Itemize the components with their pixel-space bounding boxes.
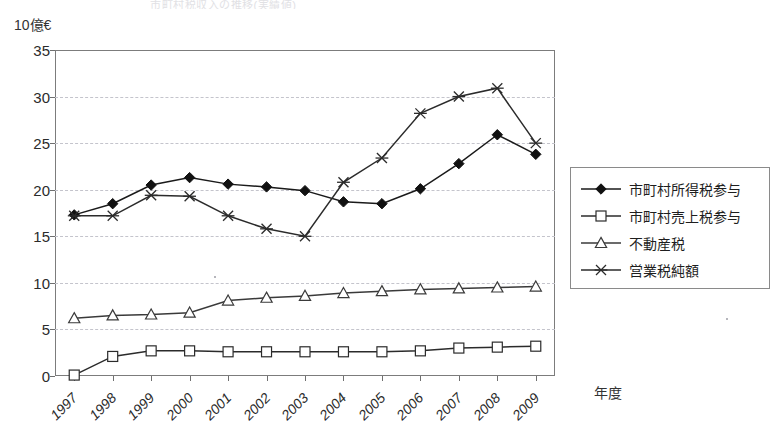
data-point-cross-star [183,191,196,201]
data-point-filled-diamond [338,197,348,207]
x-axis-tick-label: 1999 [124,390,157,423]
data-point-filled-diamond [415,184,425,194]
series-line [74,135,536,215]
y-axis-tick-label: 5 [42,321,50,338]
x-axis-tick-label: 2006 [394,390,427,423]
scan-speck [214,276,216,278]
legend-marker-open-square-icon [580,208,622,224]
data-point-open-square [300,347,310,357]
legend-item-3[interactable]: 不動産税 [571,229,769,256]
data-point-cross-star [414,108,427,118]
data-point-open-square [415,346,425,356]
chart-page: 市町村税収入の推移(実績値) 10億€ 05101520253035 19971… [0,0,783,433]
data-point-cross-star [491,83,504,93]
chart-legend: 市町村所得税参与市町村売上税参与不動産税営業税純額 [570,167,770,289]
x-axis-tick-labels: 1997199819992000200120022003200420052006… [55,376,555,431]
x-axis-tick-label: 2005 [355,390,388,423]
x-axis-tick-label: 2004 [317,390,350,423]
x-axis-tick-label: 1998 [86,390,119,423]
data-point-open-square [377,347,387,357]
data-point-filled-diamond [300,185,310,195]
data-point-cross-star [595,265,608,275]
legend-marker-cross-star-icon [580,262,622,278]
legend-item-label: 不動産税 [622,233,685,253]
data-point-open-square [454,343,464,353]
legend-item-label: 市町村所得税参与 [622,179,741,199]
x-axis-tick-label: 1997 [47,390,80,423]
data-point-filled-diamond [223,179,233,189]
data-point-cross-star [106,211,119,221]
data-point-open-square [223,347,233,357]
data-point-open-square [531,341,541,351]
x-axis-tick-label: 2000 [163,390,196,423]
x-axis-tick-label: 2003 [278,390,311,423]
legend-item-2[interactable]: 市町村売上税参与 [571,202,769,229]
y-axis-tick-label: 30 [33,88,50,105]
data-point-filled-diamond [531,149,541,159]
data-point-cross-star [529,138,542,148]
data-point-open-square [185,346,195,356]
data-point-open-square [596,211,606,221]
chart-title-clipped: 市町村税収入の推移(実績値) [150,0,570,9]
y-axis-tick-label: 10 [33,274,50,291]
data-point-filled-diamond [261,182,271,192]
legend-marker-filled-diamond-icon [580,181,622,197]
x-axis-tick-label: 2002 [240,390,273,423]
data-point-filled-diamond [377,198,387,208]
data-point-open-square [262,347,272,357]
y-axis-tick-label: 25 [33,135,50,152]
data-point-open-square [108,351,118,361]
data-point-cross-star [222,211,235,221]
data-point-filled-diamond [146,180,156,190]
legend-marker-open-triangle-icon [580,235,622,251]
data-point-cross-star [452,92,465,102]
y-axis-tick-label: 35 [33,42,50,59]
scan-speck [726,318,728,320]
series-line [74,88,536,236]
data-point-filled-diamond [596,183,606,193]
y-axis-tick-label: 0 [42,368,50,385]
y-axis-unit-label: 10億€ [14,14,51,34]
data-point-cross-star [299,231,312,241]
data-point-filled-diamond [184,172,194,182]
data-point-filled-diamond [107,198,117,208]
x-axis-tick-label: 2001 [201,390,234,423]
y-axis-tick-label: 15 [33,228,50,245]
legend-item-4[interactable]: 営業税純額 [571,256,769,283]
y-axis-tick-labels: 05101520253035 [14,50,50,376]
y-axis-tick-label: 20 [33,181,50,198]
data-point-open-square [146,346,156,356]
data-point-open-square [492,342,502,352]
legend-item-1[interactable]: 市町村所得税参与 [571,175,769,202]
x-axis-tick-label: 2009 [509,390,542,423]
data-point-open-square [338,347,348,357]
legend-item-label: 市町村売上税参与 [622,206,741,226]
data-point-filled-diamond [69,210,79,220]
x-axis-tick-label: 2008 [470,390,503,423]
x-axis-tick-label: 2007 [432,390,465,423]
legend-item-label: 営業税純額 [622,260,699,280]
data-point-cross-star [145,190,158,200]
series-layer [55,50,555,376]
data-point-cross-star [260,224,273,234]
plot-area [55,50,555,376]
x-axis-title: 年度 [594,382,622,402]
